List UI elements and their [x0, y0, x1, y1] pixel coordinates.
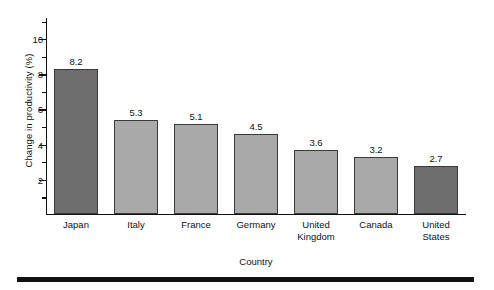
x-category-label: Germany — [226, 219, 286, 242]
y-tick-label: 10 — [32, 34, 43, 45]
bar-value-label: 8.2 — [69, 56, 82, 67]
bar[interactable]: 5.3 — [114, 120, 158, 213]
bar-value-label: 3.2 — [369, 144, 382, 155]
bar-slot: 3.2 — [346, 19, 406, 214]
x-category-label-line: Canada — [346, 219, 406, 231]
y-tick-label: 8 — [38, 69, 43, 80]
x-category-label: Italy — [106, 219, 166, 242]
x-category-label-line: Germany — [226, 219, 286, 231]
bar[interactable]: 3.6 — [294, 150, 338, 213]
x-category-label-line: United — [286, 219, 346, 231]
y-tick-label: 6 — [38, 104, 43, 115]
bar-slot: 5.3 — [106, 19, 166, 214]
x-category-label: Japan — [46, 219, 106, 242]
bar-slot: 4.5 — [226, 19, 286, 214]
x-category-label: UnitedKingdom — [286, 219, 346, 242]
plot-area: 246810 8.25.35.14.53.63.22.7 — [46, 18, 466, 215]
x-category-label: France — [166, 219, 226, 242]
x-category-label-line: France — [166, 219, 226, 231]
bar[interactable]: 5.1 — [174, 124, 218, 214]
x-category-label-line: Japan — [46, 219, 106, 231]
x-category-label-line: Kingdom — [286, 231, 346, 243]
y-tick-label: 4 — [38, 139, 43, 150]
bar[interactable]: 8.2 — [54, 69, 98, 213]
x-category-label-line: United — [406, 219, 466, 231]
bar-slot: 8.2 — [46, 19, 106, 214]
bar[interactable]: 3.2 — [354, 157, 398, 213]
x-category-label-line: Italy — [106, 219, 166, 231]
x-axis-category-labels: JapanItalyFranceGermanyUnitedKingdomCana… — [46, 219, 466, 242]
bar[interactable]: 4.5 — [234, 134, 278, 213]
y-tick-label: 2 — [38, 174, 43, 185]
x-category-label-line: States — [406, 231, 466, 243]
x-axis-title: Country — [46, 256, 466, 267]
x-axis-line — [46, 214, 466, 215]
bar-slot: 3.6 — [286, 19, 346, 214]
bar-slot: 2.7 — [406, 19, 466, 214]
bar-value-label: 2.7 — [429, 153, 442, 164]
x-category-label: UnitedStates — [406, 219, 466, 242]
bottom-divider-rule — [17, 277, 474, 282]
bar-chart-figure: Change in productivity (%) 246810 8.25.3… — [0, 0, 494, 290]
bar-series: 8.25.35.14.53.63.22.7 — [46, 19, 466, 214]
bar-value-label: 5.1 — [189, 111, 202, 122]
bar-value-label: 5.3 — [129, 107, 142, 118]
bar-value-label: 4.5 — [249, 121, 262, 132]
x-category-label: Canada — [346, 219, 406, 242]
bar-value-label: 3.6 — [309, 137, 322, 148]
bar-slot: 5.1 — [166, 19, 226, 214]
bar[interactable]: 2.7 — [414, 166, 458, 213]
